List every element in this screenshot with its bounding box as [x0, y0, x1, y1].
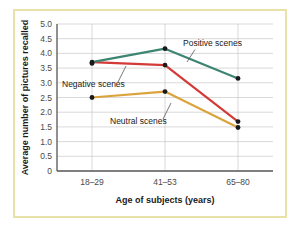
annotation-neutral-scenes: Neutral scenes [110, 116, 167, 126]
y-axis-title: Average number of pictures recalled [20, 20, 30, 176]
y-tick-label: 2.0 [40, 107, 52, 117]
y-tick-label: 5.0 [40, 19, 52, 29]
y-tick-label: 0 [47, 166, 52, 176]
y-tick-label: 1.5 [40, 122, 52, 132]
annotation-negative-scenes: Negative scenes [62, 79, 125, 89]
figure-frame: 5.0 4.5 4.0 3.5 3.0 2.5 2.0 1.5 1.0 0.5 … [13, 9, 287, 218]
y-tick-label: 3.0 [40, 78, 52, 88]
annotation-positive-scenes: Positive scenes [183, 38, 242, 48]
y-tick-label: 2.5 [40, 93, 52, 103]
y-tick-label: 4.5 [40, 34, 52, 44]
y-tick-label: 3.5 [40, 63, 52, 73]
x-axis-title: Age of subjects (years) [115, 195, 214, 205]
y-tick-label: 1.0 [40, 137, 52, 147]
x-tick-label: 65–80 [226, 177, 250, 187]
x-tick-label: 41–53 [153, 177, 177, 187]
figure-container: 5.0 4.5 4.0 3.5 3.0 2.5 2.0 1.5 1.0 0.5 … [0, 0, 299, 230]
x-tick-label: 18–29 [80, 177, 104, 187]
annotation-leader-neutral [163, 103, 171, 119]
line-chart: 5.0 4.5 4.0 3.5 3.0 2.5 2.0 1.5 1.0 0.5 … [15, 11, 285, 216]
y-tick-label: 4.0 [40, 48, 52, 58]
y-tick-label: 0.5 [40, 151, 52, 161]
